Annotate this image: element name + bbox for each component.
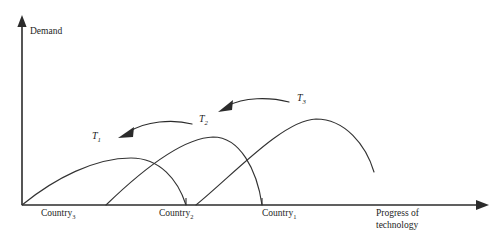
category-label-country2-subscript: 2 (190, 213, 193, 220)
category-label-country2: Country2 (159, 208, 193, 220)
shift-arrow-t3-to-t2-head (218, 100, 233, 112)
demand-curve-t3 (196, 119, 374, 205)
demand-curve-t1 (22, 158, 186, 205)
x-axis-arrowhead (476, 200, 489, 210)
curve-label-t1: T1 (92, 130, 101, 142)
category-label-country3-subscript: 3 (72, 213, 75, 220)
category-label-country1-subscript: 1 (293, 213, 296, 220)
product-life-cycle-figure: Demand T1 T2 T3 Country3 Country2 Countr… (0, 0, 500, 242)
category-label-country3-text: Country (41, 208, 72, 218)
shift-arrow-t3-to-t2 (218, 99, 289, 112)
x-axis-title-line1: Progress of (376, 208, 419, 220)
curve-label-t3-subscript: 3 (303, 98, 306, 105)
y-axis (17, 15, 26, 205)
shift-arrow-t3-to-t2-line (228, 99, 289, 106)
shift-arrow-t2-to-t1-line (129, 121, 192, 132)
figure-canvas (0, 0, 500, 242)
curve-label-t2-subscript: 2 (205, 119, 208, 126)
curve-label-t3: T3 (297, 92, 306, 104)
demand-curve-t2 (106, 137, 262, 205)
y-axis-arrowhead (17, 15, 26, 27)
y-axis-title: Demand (30, 26, 62, 38)
curve-label-t1-subscript: 1 (98, 136, 101, 143)
x-axis-title: Progress of technology (376, 208, 419, 231)
category-label-country1: Country1 (262, 208, 296, 220)
shift-arrow-t2-to-t1-head (118, 127, 134, 138)
category-label-country1-text: Country (262, 208, 293, 218)
category-label-country3: Country3 (41, 208, 75, 220)
shift-arrow-t2-to-t1 (118, 121, 192, 138)
curve-label-t2: T2 (199, 113, 208, 125)
category-label-country2-text: Country (159, 208, 190, 218)
x-axis-title-line2: technology (376, 220, 419, 232)
